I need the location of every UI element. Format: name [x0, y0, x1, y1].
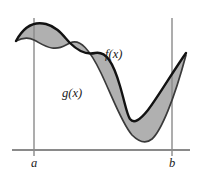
- area-between-curves-figure: f(x) g(x) a b: [0, 0, 199, 177]
- axis-label-b: b: [169, 156, 175, 170]
- curve-label-g: g(x): [62, 86, 82, 100]
- shaded-region-between-curves: [16, 23, 186, 142]
- curve-label-f: f(x): [105, 47, 122, 61]
- axis-label-a: a: [31, 156, 37, 170]
- figure-canvas: f(x) g(x) a b: [0, 0, 199, 177]
